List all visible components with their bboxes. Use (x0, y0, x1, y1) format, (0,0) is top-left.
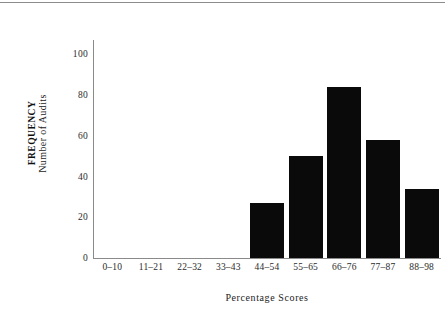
bar-slot (93, 40, 132, 258)
y-tick-label: 40 (58, 172, 88, 182)
x-axis-title: Percentage Scores (93, 292, 441, 303)
x-tick-label: 77–87 (364, 261, 403, 273)
bar-slot (132, 40, 171, 258)
x-tick-label: 22–32 (170, 261, 209, 273)
x-tick-label: 55–65 (286, 261, 325, 273)
y-axis-title-outer: FREQUENCY (27, 63, 37, 203)
y-tick-label: 100 (58, 49, 88, 59)
x-tick-label: 66–76 (325, 261, 364, 273)
bar-slot (402, 40, 441, 258)
x-axis-line (93, 258, 441, 259)
y-axis-tick-labels: 020406080100 (55, 0, 88, 319)
bar-slot (209, 40, 248, 258)
bar[interactable] (327, 87, 361, 258)
bar-slot (325, 40, 364, 258)
y-tick-label: 20 (58, 212, 88, 222)
x-tick-label: 33–43 (209, 261, 248, 273)
x-tick-label: 11–21 (132, 261, 171, 273)
bar-slot (170, 40, 209, 258)
y-tick-label: 60 (58, 131, 88, 141)
x-tick-label: 0–10 (93, 261, 132, 273)
bar[interactable] (289, 156, 323, 258)
bar[interactable] (366, 140, 400, 258)
y-axis-title-inner: Number of Audits (37, 64, 48, 204)
bar-series (93, 40, 441, 258)
bar-slot (248, 40, 287, 258)
y-tick-label: 80 (58, 90, 88, 100)
bar-slot (286, 40, 325, 258)
figure-canvas: FREQUENCY Number of Audits 020406080100 … (0, 0, 445, 319)
x-axis-tick-labels: 0–1011–2122–3233–4344–5455–6566–7677–878… (93, 261, 441, 275)
x-tick-label: 44–54 (248, 261, 287, 273)
y-tick-label: 0 (58, 253, 88, 263)
bar[interactable] (250, 203, 284, 258)
bar[interactable] (405, 189, 439, 258)
x-tick-label: 88–98 (402, 261, 441, 273)
bar-slot (364, 40, 403, 258)
